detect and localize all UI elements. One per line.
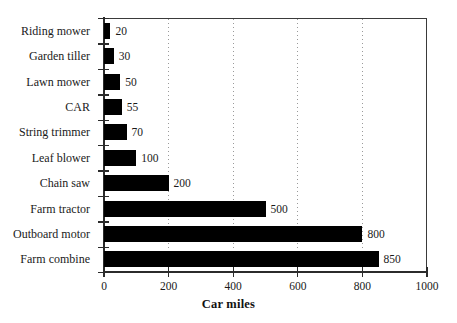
category-label: Riding mower: [0, 23, 98, 39]
bar-chart: 2030505570100200500800850 Riding mowerGa…: [0, 0, 457, 323]
x-axis-tick: [362, 267, 363, 277]
category-label: CAR: [0, 99, 98, 115]
x-axis-tick: [103, 267, 104, 277]
x-axis-tick: [233, 267, 234, 277]
y-axis-tick: [98, 170, 109, 171]
bar: [104, 226, 362, 242]
y-axis-tick: [98, 247, 109, 248]
x-axis-title: Car miles: [0, 297, 457, 312]
bar: [104, 251, 379, 267]
category-label: Leaf blower: [0, 150, 98, 166]
x-axis-line: [103, 271, 428, 273]
bar-value-label: 30: [119, 48, 131, 64]
x-axis-tick-label: 800: [354, 279, 371, 293]
bar-value-label: 500: [271, 201, 288, 217]
y-axis-tick: [98, 18, 109, 19]
x-axis-tick: [426, 267, 427, 277]
category-label: Lawn mower: [0, 74, 98, 90]
y-axis-tick: [98, 221, 109, 222]
y-axis-tick: [98, 43, 109, 44]
bar: [104, 201, 266, 217]
category-label: String trimmer: [0, 124, 98, 140]
x-axis-tick-label: 200: [160, 279, 177, 293]
bar: [104, 99, 122, 115]
x-axis-tick: [297, 267, 298, 277]
bar-value-label: 850: [384, 251, 401, 267]
y-axis-tick: [98, 196, 109, 197]
bar: [104, 124, 127, 140]
y-axis-tick: [98, 69, 109, 70]
bar: [104, 150, 136, 166]
category-label: Farm combine: [0, 251, 98, 267]
x-axis-tick-label: 600: [289, 279, 306, 293]
bar-value-label: 20: [115, 23, 127, 39]
y-axis-tick: [98, 145, 109, 146]
bar: [104, 74, 120, 90]
y-axis-tick: [98, 94, 109, 95]
bar-value-label: 70: [132, 124, 144, 140]
x-axis-tick-label: 400: [225, 279, 242, 293]
bar-value-label: 200: [174, 175, 191, 191]
category-label: Outboard motor: [0, 226, 98, 242]
bar-value-label: 100: [141, 150, 158, 166]
y-axis-tick: [98, 120, 109, 121]
category-label: Chain saw: [0, 175, 98, 191]
bar: [104, 48, 114, 64]
bar-value-label: 50: [125, 74, 137, 90]
bar-value-label: 55: [127, 99, 139, 115]
category-label: Garden tiller: [0, 48, 98, 64]
bar: [104, 175, 169, 191]
bar-value-label: 800: [367, 226, 384, 242]
x-axis-tick: [168, 267, 169, 277]
category-label: Farm tractor: [0, 201, 98, 217]
x-axis-tick-label: 0: [101, 279, 107, 293]
bar: [104, 23, 110, 39]
x-axis-tick-label: 1000: [416, 279, 439, 293]
